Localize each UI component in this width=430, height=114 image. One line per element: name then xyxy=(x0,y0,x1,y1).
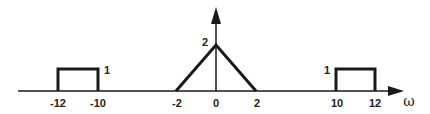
rect-right-height-label: 1 xyxy=(324,64,330,76)
spectrum-diagram: 1 2 1 -12 -10 -2 0 2 10 12 ω xyxy=(0,0,430,114)
triangle-peak-label: 2 xyxy=(202,36,208,48)
rect-left-height-label: 1 xyxy=(104,64,110,76)
rect-pulse-right xyxy=(336,69,375,91)
tick-label: 10 xyxy=(331,97,343,109)
tick-label: 0 xyxy=(213,97,219,109)
tick-label: 12 xyxy=(369,97,381,109)
x-axis-label: ω xyxy=(403,93,414,109)
tick-label: 2 xyxy=(254,97,260,109)
tick-label: -2 xyxy=(172,97,182,109)
tick-label: -10 xyxy=(90,97,106,109)
x-axis-arrow-icon xyxy=(388,86,404,96)
y-axis-arrow-icon xyxy=(211,7,221,24)
rect-pulse-left xyxy=(58,69,98,91)
tick-label: -12 xyxy=(50,97,66,109)
